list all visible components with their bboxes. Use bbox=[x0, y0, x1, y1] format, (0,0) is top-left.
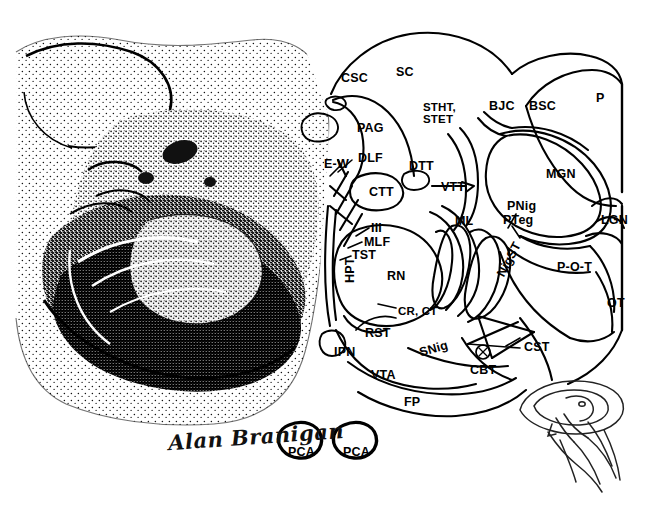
label-stht: STHT, STET bbox=[423, 102, 456, 125]
label-p: P bbox=[596, 92, 605, 105]
label-cst: CST bbox=[524, 341, 550, 354]
label-rst: RST bbox=[365, 327, 391, 340]
label-vtt: VTT bbox=[441, 181, 465, 194]
label-bsc: BSC bbox=[529, 100, 556, 113]
label-iii: III bbox=[371, 222, 382, 235]
label-ot: OT bbox=[607, 297, 625, 310]
label-bjc: BJC bbox=[489, 100, 515, 113]
label-fp: FP bbox=[404, 396, 420, 409]
label-ctt: CTT bbox=[369, 186, 394, 199]
label-ipn: IPN bbox=[334, 346, 355, 359]
label-rn: RN bbox=[387, 270, 405, 283]
label-dlf: DLF bbox=[358, 152, 383, 165]
line-diagram-half bbox=[278, 33, 624, 458]
label-vta: VTA bbox=[371, 369, 396, 382]
label-pag: PAG bbox=[357, 122, 384, 135]
label-pot: P-O-T bbox=[557, 261, 592, 274]
label-mlf: MLF bbox=[364, 236, 390, 249]
label-crct: CR, CT bbox=[398, 306, 438, 318]
label-pteg: PTeg bbox=[503, 214, 533, 227]
figure-canvas: CSCSCSTHT, STETBJCBSCPPAGDLFE-WDTTVTTMGN… bbox=[0, 0, 662, 509]
label-mgn: MGN bbox=[546, 168, 576, 181]
label-hpt: HPT bbox=[344, 257, 357, 283]
label-ml: ML bbox=[455, 215, 473, 228]
label-lgn: LGN bbox=[601, 214, 628, 227]
label-pca2: PCA bbox=[343, 446, 370, 459]
label-csc: CSC bbox=[341, 72, 368, 85]
label-ew: E-W bbox=[324, 158, 349, 171]
label-cbt: CBT bbox=[470, 364, 496, 377]
label-sc: SC bbox=[396, 66, 414, 79]
stippled-section bbox=[16, 36, 329, 425]
label-pca1: PCA bbox=[288, 446, 315, 459]
label-pnig: PNig bbox=[507, 200, 536, 213]
brain-orientation-inset bbox=[520, 381, 623, 492]
label-dtt: DTT bbox=[409, 160, 434, 173]
